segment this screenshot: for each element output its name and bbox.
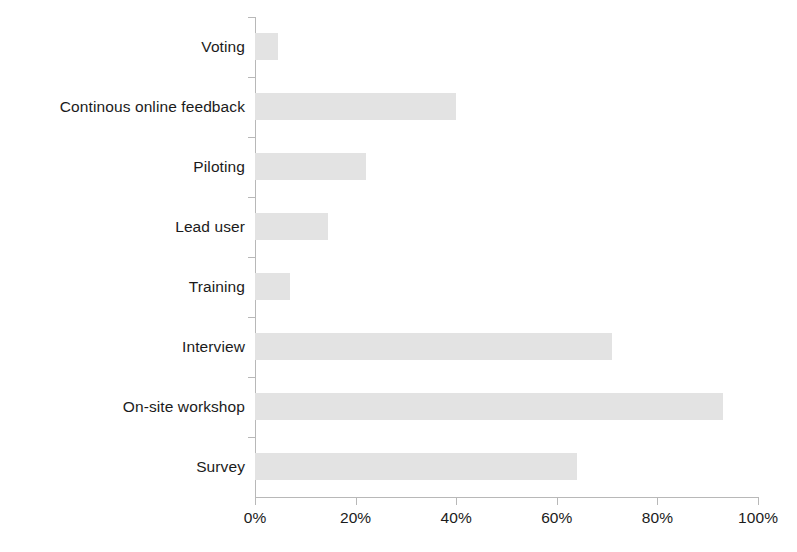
bar	[255, 273, 290, 300]
y-axis-tick	[248, 17, 255, 18]
bar-chart: 0%20%40%60%80%100% VotingContinous onlin…	[0, 0, 797, 552]
bar	[255, 333, 612, 360]
x-axis-tick	[255, 497, 256, 505]
x-axis-tick	[657, 497, 658, 505]
bar	[255, 93, 456, 120]
x-axis-tick-label: 20%	[340, 509, 371, 527]
bar	[255, 213, 328, 240]
bar-row	[255, 377, 758, 437]
bar-row	[255, 437, 758, 497]
x-axis-tick-label: 40%	[441, 509, 472, 527]
x-axis-tick-label: 100%	[738, 509, 778, 527]
x-axis-tick	[557, 497, 558, 505]
bar-row	[255, 17, 758, 77]
bar	[255, 153, 366, 180]
y-axis-tick	[248, 77, 255, 78]
category-label: Interview	[182, 333, 245, 360]
x-axis-tick-label: 0%	[244, 509, 267, 527]
category-label: Training	[189, 273, 245, 300]
bar-row	[255, 197, 758, 257]
y-axis-tick	[248, 377, 255, 378]
y-axis-tick	[248, 137, 255, 138]
plot-area	[255, 17, 758, 497]
x-axis-tick-label: 60%	[541, 509, 572, 527]
bar-row	[255, 137, 758, 197]
category-label: On-site workshop	[123, 393, 245, 420]
bar-row	[255, 257, 758, 317]
x-axis-line	[255, 497, 758, 498]
category-label: Lead user	[175, 213, 245, 240]
x-axis-tick-label: 80%	[642, 509, 673, 527]
category-label: Continous online feedback	[60, 93, 245, 120]
y-axis-tick	[248, 317, 255, 318]
category-label: Survey	[196, 453, 245, 480]
category-label: Piloting	[193, 153, 245, 180]
bar	[255, 453, 577, 480]
bar	[255, 393, 723, 420]
y-axis-tick	[248, 437, 255, 438]
x-axis-tick	[758, 497, 759, 505]
bar-row	[255, 317, 758, 377]
x-axis-tick	[456, 497, 457, 505]
category-label: Voting	[201, 33, 245, 60]
bar-row	[255, 77, 758, 137]
x-axis-tick	[356, 497, 357, 505]
bar	[255, 33, 278, 60]
y-axis-tick	[248, 197, 255, 198]
y-axis-tick	[248, 257, 255, 258]
